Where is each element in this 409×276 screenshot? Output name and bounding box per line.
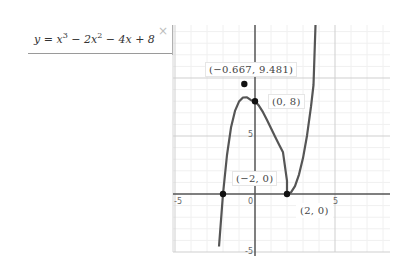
root-left-label: (−2, 0) (232, 171, 277, 186)
x-tick-5: 5 (333, 197, 338, 206)
y-intercept-point[interactable] (252, 98, 258, 104)
origin-tick: 0 (248, 197, 253, 206)
root-point-left[interactable] (220, 191, 226, 197)
y-tick-neg5: -5 (245, 247, 253, 256)
minor-grid (173, 25, 390, 252)
max-point-label: (−0.667, 9.481) (205, 62, 297, 77)
graph-canvas[interactable] (0, 0, 409, 276)
root-right-label: (2, 0) (296, 203, 333, 218)
max-point[interactable] (241, 81, 247, 87)
major-grid (173, 25, 390, 252)
root-point-right[interactable] (284, 191, 290, 197)
x-tick-neg5: -5 (174, 197, 182, 206)
y-tick-5: 5 (248, 130, 253, 139)
y-intercept-label: (0, 8) (268, 94, 305, 109)
